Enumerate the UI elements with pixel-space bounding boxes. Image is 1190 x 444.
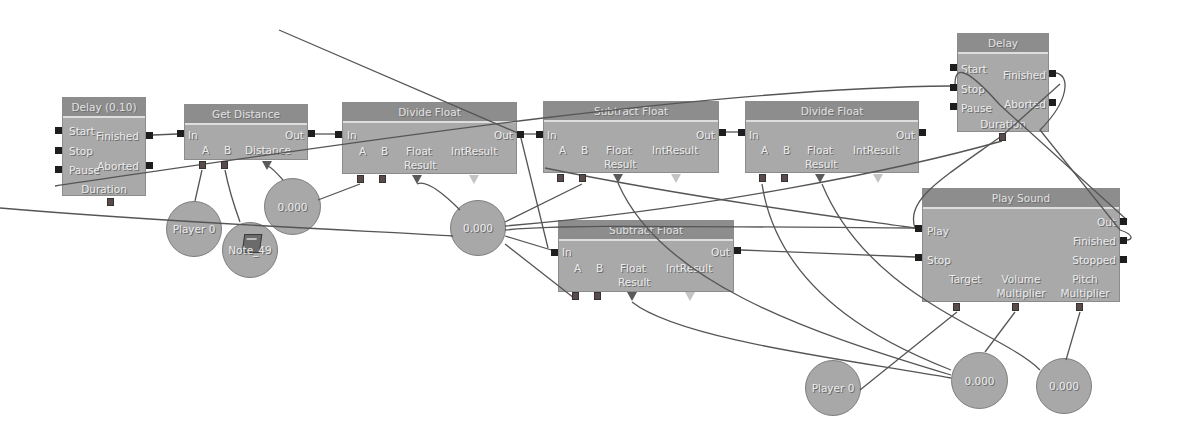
subtract-float-2-b-port[interactable]: [594, 292, 601, 300]
var-player-0-b[interactable]: Player 0: [805, 360, 861, 416]
subtract-float-1-a-port[interactable]: [557, 174, 564, 182]
divide-float-2-result-port[interactable]: [815, 174, 825, 183]
get-distance-out-port[interactable]: [308, 130, 315, 137]
var-duration-label: Duration: [63, 183, 145, 195]
input-in-label: In: [562, 246, 572, 258]
divide-float-1-b-port[interactable]: [379, 175, 386, 183]
divide-float-2-in-port[interactable]: [738, 129, 745, 136]
delay-stop-port[interactable]: [950, 84, 957, 91]
input-stop-label: Stop: [69, 145, 93, 157]
subtract-float-2-a-port[interactable]: [572, 292, 579, 300]
divide-float-1-in-port[interactable]: [335, 131, 342, 138]
node-delay-010[interactable]: Delay (0.10) Start Stop Pause Finished A…: [62, 97, 146, 196]
node-divide-float-2[interactable]: Divide Float In Out A B Float Result Int…: [745, 101, 919, 173]
play-sound-pitch-port[interactable]: [1076, 303, 1083, 311]
node-subtract-float-1[interactable]: Subtract Float In Out A B Float Result I…: [543, 101, 719, 173]
input-in-label: In: [347, 129, 357, 141]
subtract-float-1-out-port[interactable]: [719, 129, 726, 136]
input-in-label: In: [749, 129, 759, 141]
divide-float-2-a-port[interactable]: [759, 174, 766, 182]
var-b-label: B: [783, 144, 790, 156]
divide-float-2-out-port[interactable]: [919, 129, 926, 136]
divide-float-1-result-port[interactable]: [412, 175, 422, 184]
node-subtract-float-2[interactable]: Subtract Float In Out A B Float Result I…: [558, 220, 734, 292]
get-distance-b-port[interactable]: [221, 161, 228, 169]
var-b-label: B: [581, 144, 588, 156]
var-float-c[interactable]: 0.000: [951, 352, 1008, 409]
var-float-d[interactable]: 0.000: [1036, 358, 1092, 414]
subtract-float-2-intresult-port[interactable]: [685, 292, 695, 301]
var-target-label: Target: [949, 273, 981, 285]
delay-010-finished-port[interactable]: [146, 132, 153, 139]
delay-start-port[interactable]: [950, 64, 957, 71]
var-float-a[interactable]: 0.000: [264, 178, 321, 235]
node-get-distance[interactable]: Get Distance In Out A B Distance: [184, 104, 308, 160]
output-aborted-label: Aborted: [97, 160, 139, 172]
node-title: Play Sound: [923, 189, 1119, 209]
divide-float-2-b-port[interactable]: [781, 174, 788, 182]
subtract-float-1-in-port[interactable]: [536, 131, 543, 138]
output-out-label: Out: [711, 246, 730, 258]
kismet-canvas[interactable]: Delay (0.10) Start Stop Pause Finished A…: [0, 0, 1190, 444]
divide-float-1-intresult-port[interactable]: [469, 175, 479, 184]
get-distance-in-port[interactable]: [177, 130, 184, 137]
delay-010-duration-port[interactable]: [107, 198, 114, 206]
play-sound-play-port[interactable]: [915, 225, 922, 232]
subtract-float-1-result-port[interactable]: [613, 174, 623, 183]
output-aborted-label: Aborted: [1004, 98, 1046, 110]
subtract-float-2-in-port[interactable]: [551, 249, 558, 256]
play-sound-target-port[interactable]: [953, 303, 960, 311]
node-divide-float-1[interactable]: Divide Float In Out A B Float Result Int…: [342, 102, 517, 174]
subtract-float-2-out-port[interactable]: [734, 247, 741, 254]
var-value: 0.000: [277, 201, 307, 213]
node-title: Get Distance: [185, 105, 307, 125]
var-float-label: Float: [620, 262, 646, 274]
input-stop-label: Stop: [927, 254, 951, 266]
output-out-label: Out: [285, 129, 304, 141]
delay-finished-port[interactable]: [1049, 70, 1056, 77]
play-sound-out-port[interactable]: [1120, 218, 1127, 225]
play-sound-stopped-port[interactable]: [1120, 256, 1127, 263]
var-a-label: A: [574, 262, 581, 274]
var-value: Note_49: [228, 244, 271, 256]
var-note-49[interactable]: Note_49: [222, 222, 278, 278]
output-out-label: Out: [896, 129, 915, 141]
var-b-label: B: [596, 262, 603, 274]
node-title: Divide Float: [343, 103, 516, 123]
node-title: Subtract Float: [559, 221, 733, 241]
var-player-0[interactable]: Player 0: [166, 201, 222, 257]
delay-010-aborted-port[interactable]: [146, 162, 153, 169]
play-sound-stop-port[interactable]: [915, 254, 922, 261]
delay-010-start-port[interactable]: [55, 127, 62, 134]
node-title: Divide Float: [746, 102, 918, 122]
play-sound-finished-port[interactable]: [1120, 237, 1127, 244]
var-a-label: A: [202, 144, 209, 156]
play-sound-volume-port[interactable]: [1012, 303, 1019, 311]
var-float-label: Float: [406, 145, 432, 157]
get-distance-a-port[interactable]: [199, 161, 206, 169]
input-start-label: Start: [961, 63, 987, 75]
node-delay[interactable]: Delay Start Stop Pause Finished Aborted …: [957, 33, 1049, 132]
delay-duration-port[interactable]: [999, 133, 1006, 141]
delay-010-pause-port[interactable]: [55, 166, 62, 173]
var-pitch-label: Pitch: [1059, 273, 1111, 285]
delay-010-stop-port[interactable]: [55, 147, 62, 154]
var-duration-label: Duration: [958, 118, 1048, 130]
delay-aborted-port[interactable]: [1049, 99, 1056, 106]
divide-float-1-a-port[interactable]: [357, 175, 364, 183]
var-float-b[interactable]: 0.000: [450, 200, 506, 256]
subtract-float-2-result-port[interactable]: [627, 292, 637, 301]
output-finished-label: Finished: [1003, 69, 1046, 81]
var-value: 0.000: [1049, 380, 1079, 392]
subtract-float-1-b-port[interactable]: [579, 174, 586, 182]
var-result-label: Result: [805, 158, 837, 170]
get-distance-distance-port[interactable]: [262, 161, 272, 170]
output-stopped-label: Stopped: [1072, 254, 1116, 266]
divide-float-1-out-port[interactable]: [517, 131, 524, 138]
var-value: Player 0: [173, 223, 216, 235]
node-play-sound[interactable]: Play Sound Play Stop Out Finished Stoppe…: [922, 188, 1120, 302]
divide-float-2-intresult-port[interactable]: [873, 174, 883, 183]
delay-pause-port[interactable]: [950, 103, 957, 110]
var-a-label: A: [559, 144, 566, 156]
subtract-float-1-intresult-port[interactable]: [671, 174, 681, 183]
